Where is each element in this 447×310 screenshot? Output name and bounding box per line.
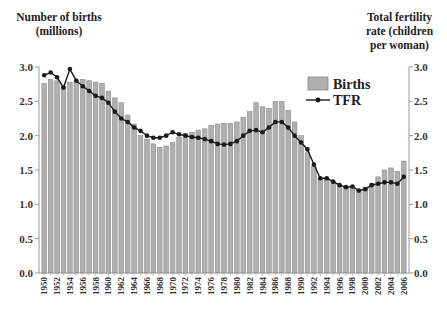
x-tick-label: 1980: [232, 277, 242, 296]
tfr-point: [401, 175, 406, 180]
births-bar: [344, 187, 349, 273]
births-bar: [183, 134, 188, 273]
x-tick-label: 1950: [39, 277, 49, 296]
births-bar: [80, 79, 85, 273]
x-tick-label: 1966: [142, 277, 152, 296]
births-bar: [151, 144, 156, 273]
births-bar: [324, 178, 329, 273]
births-bar: [74, 81, 79, 273]
x-tick-label: 1992: [309, 277, 319, 296]
tfr-point: [292, 133, 297, 138]
x-tick-label: 1956: [78, 277, 88, 296]
tfr-point: [363, 187, 368, 192]
x-tick-label: 1986: [270, 277, 280, 296]
births-bar: [241, 117, 246, 273]
tfr-point: [87, 89, 92, 94]
births-bar: [125, 115, 130, 273]
births-bar: [106, 91, 111, 273]
births-bar: [267, 108, 272, 273]
x-tick-label: 2002: [373, 277, 383, 296]
x-tick-label: 1994: [322, 277, 332, 296]
tfr-point: [357, 188, 362, 193]
births-bar: [55, 81, 60, 273]
tfr-point: [93, 94, 98, 99]
tfr-point: [235, 139, 240, 144]
left-y-tick-label: 2.0: [19, 130, 33, 142]
x-tick-label: 2004: [386, 277, 396, 296]
births-bar: [177, 137, 182, 273]
right-y-tick-label: 3.0: [414, 61, 428, 73]
births-bar: [164, 146, 169, 273]
x-tick-label: 1972: [180, 277, 190, 296]
tfr-point: [318, 176, 323, 181]
births-bar: [312, 167, 317, 273]
tfr-point: [331, 179, 336, 184]
births-bar: [337, 185, 342, 273]
tfr-point: [157, 135, 162, 140]
tfr-point: [42, 73, 47, 78]
tfr-point: [177, 132, 182, 137]
births-bar: [286, 110, 291, 273]
births-bar: [145, 139, 150, 273]
tfr-point: [183, 133, 188, 138]
births-bar: [42, 83, 47, 273]
births-bar: [318, 178, 323, 273]
tfr-point: [241, 133, 246, 138]
x-tick-label: 1978: [219, 277, 229, 296]
x-tick-label: 1970: [168, 277, 178, 296]
tfr-point: [222, 142, 227, 147]
right-y-tick-label: 1.0: [414, 198, 428, 210]
tfr-point: [260, 130, 265, 135]
births-bar: [279, 101, 284, 273]
right-y-tick-label: 2.5: [414, 95, 428, 107]
legend: Births TFR: [306, 77, 371, 108]
births-bar: [247, 112, 252, 273]
tfr-point: [48, 70, 53, 75]
births-bar: [363, 187, 368, 273]
legend-tfr-label: TFR: [333, 93, 362, 108]
births-bar: [132, 124, 137, 273]
tfr-point: [279, 120, 284, 125]
x-tick-label: 1984: [258, 277, 268, 296]
x-tick-label: 1998: [347, 277, 357, 296]
births-bar: [119, 103, 124, 273]
births-bar: [357, 191, 362, 273]
left-y-tick-label: 1.5: [19, 164, 33, 176]
tfr-point: [74, 78, 79, 83]
left-y-tick-label: 0.0: [19, 267, 33, 279]
tfr-point: [337, 183, 342, 188]
x-tick-label: 1960: [103, 277, 113, 296]
births-bar: [331, 182, 336, 273]
tfr-point: [324, 176, 329, 181]
left-y-tick-label: 3.0: [19, 61, 33, 73]
tfr-point: [215, 142, 220, 147]
x-tick-label: 1952: [52, 277, 62, 296]
births-bar: [292, 122, 297, 273]
legend-births-label: Births: [333, 77, 371, 92]
births-bar: [48, 79, 53, 273]
births-bar: [235, 122, 240, 273]
legend-tfr-marker: [316, 98, 321, 103]
births-bar: [100, 83, 105, 273]
tfr-point: [202, 137, 207, 142]
x-tick-label: 1958: [91, 277, 101, 296]
tfr-point: [68, 67, 73, 72]
tfr-point: [164, 133, 169, 138]
tfr-point: [299, 140, 304, 145]
births-bar: [190, 132, 195, 273]
tfr-point: [132, 125, 137, 130]
tfr-point: [369, 183, 374, 188]
tfr-point: [286, 125, 291, 130]
tfr-point: [125, 120, 130, 125]
tfr-point: [113, 109, 118, 114]
births-bar: [196, 130, 201, 273]
tfr-point: [196, 135, 201, 140]
tfr-point: [382, 180, 387, 185]
tfr-point: [344, 185, 349, 190]
tfr-point: [228, 142, 233, 147]
tfr-point: [151, 135, 156, 140]
births-bar: [202, 129, 207, 273]
births-bars: [42, 79, 406, 273]
tfr-point: [106, 100, 111, 105]
tfr-point: [61, 85, 66, 90]
